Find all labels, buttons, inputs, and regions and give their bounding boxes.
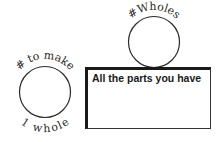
parts-box: All the parts you have <box>85 67 211 129</box>
left-circle-top-label: # to make <box>13 49 78 73</box>
left-circle <box>20 67 71 118</box>
top-circle <box>129 17 180 68</box>
parts-box-label: All the parts you have <box>92 72 201 84</box>
left-circle-bottom-label: 1 whole <box>19 115 72 135</box>
top-circle-label: #Wholes <box>125 0 183 21</box>
